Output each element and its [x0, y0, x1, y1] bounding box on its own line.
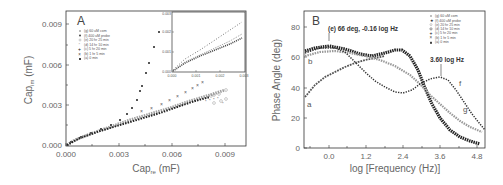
svg-text:0.003: 0.003 [240, 74, 249, 78]
a-xtick-1: 0.003 [109, 150, 130, 159]
svg-text:*: * [205, 99, 207, 104]
annotation-freq: 3.60 log Hz [430, 56, 465, 64]
panel-a-legend: (g) 60 uM com (f) 400 uM probe (e) 20 hr… [78, 29, 110, 60]
svg-text:×: × [160, 101, 163, 107]
a-xtick-3: 0.009 [215, 150, 236, 159]
svg-text:(a) 0 min: (a) 0 min [84, 56, 98, 60]
b-xtick-3: 3.6 [434, 152, 446, 161]
svg-text:0.002: 0.002 [216, 74, 225, 78]
svg-text:b: b [308, 57, 313, 66]
a-xtick-2: 0.006 [162, 150, 183, 159]
svg-text:0.003: 0.003 [162, 12, 171, 16]
svg-text:(f) 400 uM probe: (f) 400 uM probe [84, 34, 110, 38]
panel-b-label: B [312, 14, 320, 28]
svg-text:×: × [78, 52, 81, 57]
panel-a-inset: 0.000 0.001 0.002 0.003 0.000 0.001 0.00… [162, 12, 248, 78]
a-ylabel: Capim (mF) [23, 56, 35, 105]
b-ylabel: Phase Angle (deg) [271, 39, 282, 121]
svg-text:×: × [184, 89, 187, 95]
svg-text:(a) 0 min: (a) 0 min [435, 40, 449, 44]
svg-text:(c) 5 hr 20 min: (c) 5 hr 20 min [84, 47, 107, 51]
b-ytick-1: 20 [291, 114, 300, 123]
svg-text:0.001: 0.001 [162, 50, 171, 54]
svg-text:f: f [459, 79, 462, 88]
svg-text:(b) 1 hr 5 min: (b) 1 hr 5 min [84, 52, 105, 56]
a-ytick-2: 0.006 [42, 61, 63, 70]
b-ytick-0: 0 [296, 144, 301, 153]
svg-text:*: * [222, 101, 224, 106]
svg-text:(e) 20 hr 25 min: (e) 20 hr 25 min [84, 38, 109, 42]
a-ytick-1: 0.003 [42, 101, 63, 110]
svg-text:*: * [217, 96, 219, 101]
a-ytick-3: 0.009 [42, 20, 63, 29]
svg-text:×: × [191, 85, 194, 91]
svg-text:×: × [430, 35, 433, 40]
a-ytick-0: 0.000 [42, 141, 63, 150]
svg-text:g: g [463, 105, 467, 114]
b-ytick-4: 80 [291, 23, 300, 32]
svg-text:★: ★ [430, 18, 434, 23]
svg-text:0.000: 0.000 [162, 70, 171, 74]
panel-b-legend: (g) 60 uM com ★(f) 400 uM probe (e) 20 h… [430, 14, 461, 44]
b-xlabel: log [Frequency (Hz)] [350, 163, 441, 174]
panel-a: 0.000 0.003 0.006 0.009 0.000 0.003 0.00… [23, 11, 248, 175]
b-xtick-1: 1.2 [360, 152, 372, 161]
svg-text:×: × [176, 93, 179, 99]
svg-text:×: × [140, 108, 143, 114]
b-ytick-3: 60 [291, 53, 300, 62]
svg-text:(g) 60 uM com: (g) 60 uM com [84, 29, 107, 33]
b-ytick-2: 40 [291, 84, 300, 93]
svg-text:0.000: 0.000 [168, 74, 177, 78]
annotation-peak: (e) 66 deg, -0.16 log Hz [328, 25, 399, 33]
b-xtick-0: 0.0 [323, 152, 335, 161]
svg-text:0.002: 0.002 [162, 30, 171, 34]
b-xtick-4: 4.8 [471, 152, 483, 161]
a-xlabel: Capre (mF) [132, 163, 180, 175]
svg-text:×: × [168, 97, 171, 103]
svg-text:×: × [196, 82, 199, 88]
svg-text:*: * [209, 98, 211, 103]
svg-text:×: × [201, 79, 204, 85]
svg-text:*: * [213, 97, 215, 102]
svg-text:0.001: 0.001 [192, 74, 201, 78]
svg-text:a: a [307, 100, 312, 109]
svg-text:(d) 14 hr 10 min: (d) 14 hr 10 min [84, 43, 109, 47]
panel-b: 0.0 1.2 2.4 3.6 4.8 0 20 40 60 80 log [F… [271, 11, 485, 174]
figure: 0.000 0.003 0.006 0.009 0.000 0.003 0.00… [0, 0, 503, 185]
b-xtick-2: 2.4 [397, 152, 409, 161]
svg-text:×: × [150, 105, 153, 111]
a-xtick-0: 0.000 [56, 150, 77, 159]
panel-a-label: A [77, 14, 85, 28]
